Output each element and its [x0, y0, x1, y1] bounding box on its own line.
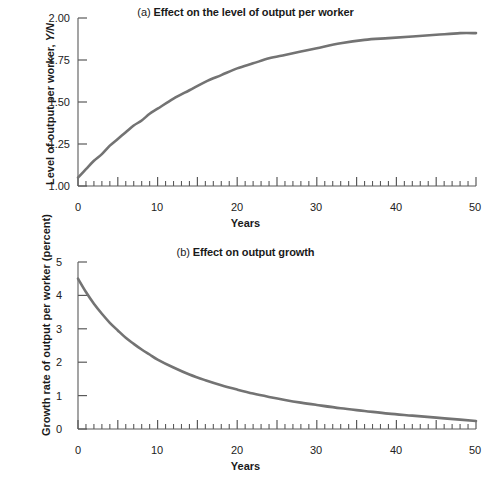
data-line-b	[78, 279, 476, 421]
chart-svg-a	[0, 0, 491, 245]
chart-axes-a	[78, 18, 476, 186]
chart-svg-b	[0, 238, 491, 491]
chart-panel-a: (a) Effect on the level of output per wo…	[0, 0, 491, 245]
data-line-a	[78, 33, 476, 178]
figure-container: (a) Effect on the level of output per wo…	[0, 0, 491, 491]
chart-panel-b: (b) Effect on output growth Growth rate …	[0, 238, 491, 491]
